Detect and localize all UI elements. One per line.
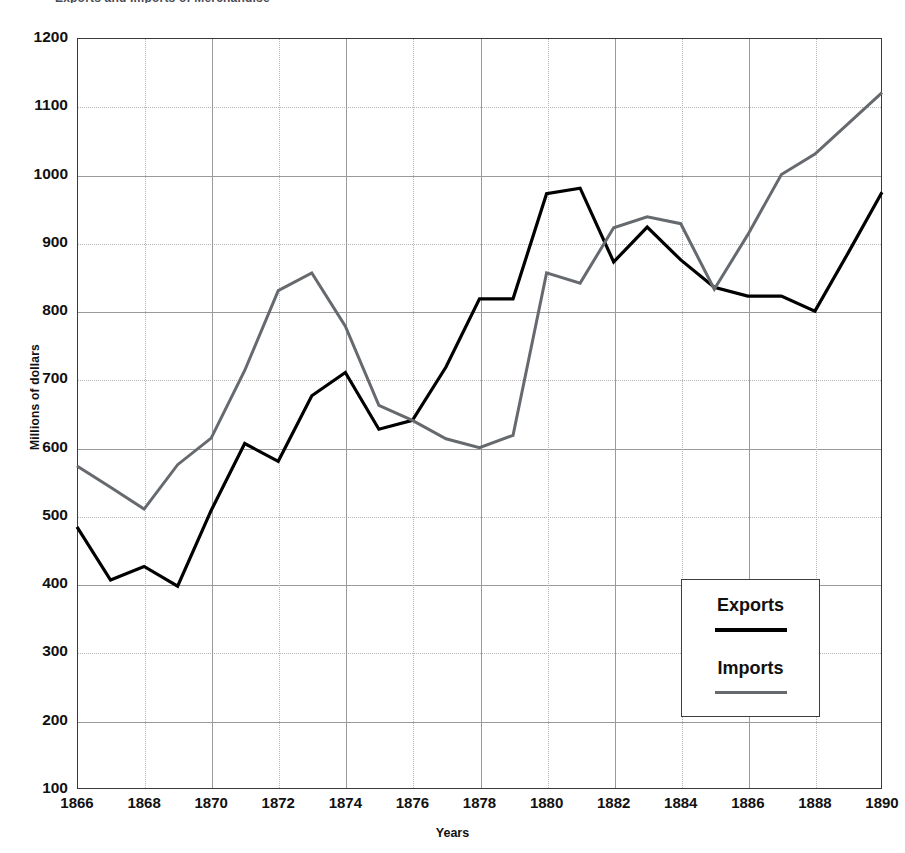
x-tick-label: 1884 — [664, 794, 697, 811]
x-axis-ticks: 1866186818701872187418761878188018821884… — [0, 0, 905, 853]
x-tick-label: 1880 — [530, 794, 563, 811]
x-tick-label: 1888 — [798, 794, 831, 811]
x-tick-label: 1882 — [597, 794, 630, 811]
legend-swatch-imports — [715, 691, 787, 694]
legend-label-exports: Exports — [682, 594, 819, 616]
x-tick-label: 1874 — [329, 794, 362, 811]
x-tick-label: 1868 — [127, 794, 160, 811]
x-tick-label: 1876 — [396, 794, 429, 811]
x-tick-label: 1872 — [262, 794, 295, 811]
legend-item-imports: Imports — [682, 657, 819, 694]
x-tick-label: 1870 — [194, 794, 227, 811]
legend-item-exports: Exports — [682, 594, 819, 632]
legend: Exports Imports — [681, 579, 820, 717]
x-axis-title: Years — [0, 826, 905, 840]
legend-swatch-exports — [715, 628, 787, 632]
line-chart: Exports and Imports of Merchandise 10020… — [0, 0, 905, 853]
x-tick-label: 1886 — [731, 794, 764, 811]
x-tick-label: 1890 — [865, 794, 898, 811]
y-axis-title: Millions of dollars — [28, 327, 42, 467]
legend-label-imports: Imports — [682, 657, 819, 679]
x-tick-label: 1878 — [463, 794, 496, 811]
x-tick-label: 1866 — [60, 794, 93, 811]
